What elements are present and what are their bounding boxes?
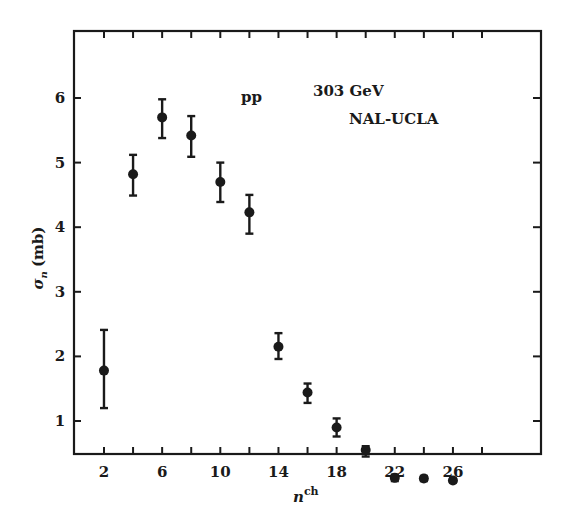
x-tick-label: 14	[268, 463, 289, 481]
marker-dot	[99, 366, 109, 376]
data-point	[448, 475, 458, 485]
x-axis-tick-labels: 261014182226	[99, 463, 464, 481]
marker-dot	[244, 207, 254, 217]
marker-dot	[361, 445, 371, 455]
y-tick-label: 5	[55, 154, 65, 172]
data-point	[303, 384, 313, 403]
x-tick-label: 2	[99, 463, 109, 481]
x-tick-label: 18	[326, 463, 347, 481]
y-tick-label: 2	[55, 347, 65, 365]
marker-dot	[157, 112, 167, 122]
data-point	[244, 195, 254, 234]
y-axis-title-unit: (mb)	[29, 227, 47, 268]
marker-dot	[332, 422, 342, 432]
marker-dot	[215, 177, 225, 187]
x-tick-label: 6	[157, 463, 167, 481]
data-point	[390, 473, 400, 483]
svg-text:σn(mb): σn(mb)	[29, 227, 49, 290]
marker-dot	[128, 169, 138, 179]
marker-dot	[303, 388, 313, 398]
y-axis-title: σn(mb)	[29, 227, 49, 290]
y-tick-label: 3	[55, 283, 65, 301]
marker-dot	[186, 130, 196, 140]
x-axis-ticks	[104, 31, 482, 454]
marker-dot	[419, 473, 429, 483]
data-point	[215, 163, 225, 202]
y-axis-title-sub: n	[38, 271, 49, 278]
data-point	[157, 99, 167, 138]
marker-dot	[273, 342, 283, 352]
data-series	[99, 99, 458, 485]
y-tick-label: 1	[55, 412, 65, 430]
annotation-energy: 303 GeV	[313, 82, 384, 100]
chart: 261014182226 123456 pp 303 GeV NAL-UCLA …	[0, 0, 566, 524]
annotation-experiment: NAL-UCLA	[349, 110, 439, 128]
y-axis-tick-labels: 123456	[55, 89, 65, 430]
y-tick-label: 4	[55, 218, 65, 236]
x-axis-title-sup: ch	[304, 485, 319, 498]
data-point	[332, 418, 342, 436]
data-point	[99, 330, 109, 408]
x-axis-title-base: n	[293, 488, 304, 506]
marker-dot	[390, 473, 400, 483]
data-point	[419, 473, 429, 483]
x-tick-label: 10	[210, 463, 231, 481]
data-point	[273, 333, 283, 359]
marker-dot	[448, 475, 458, 485]
annotation-pp: pp	[241, 88, 262, 106]
chart-canvas: 261014182226 123456 pp 303 GeV NAL-UCLA …	[0, 0, 566, 524]
x-axis-title: nch	[293, 485, 319, 506]
y-tick-label: 6	[55, 89, 65, 107]
y-axis-ticks	[74, 98, 541, 421]
data-point	[128, 155, 138, 196]
data-point	[186, 116, 196, 157]
